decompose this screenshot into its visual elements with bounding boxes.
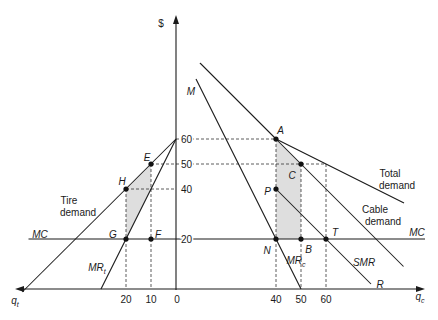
cable-quantity-axis-label: qc (415, 291, 425, 304)
label-demand: demand (60, 207, 96, 218)
label-tire: Tire (61, 195, 78, 206)
price-axis-arrow-icon (173, 15, 179, 24)
cable-shaded-area (276, 139, 301, 239)
point-b (298, 236, 303, 241)
mr-tire-curve (101, 139, 176, 289)
label-smr: SMR (353, 257, 375, 268)
x-tick-tire-10: 10 (145, 294, 157, 305)
x-tick-cable-50: 50 (295, 294, 307, 305)
point-a (273, 136, 278, 141)
label-r: R (376, 279, 383, 290)
label-t: T (332, 227, 339, 238)
y-tick-20: 20 (181, 234, 193, 245)
label-demand: demand (365, 216, 401, 227)
point-n (273, 236, 278, 241)
point-f (148, 236, 153, 241)
label-cable: Cable (362, 204, 389, 215)
label-mc: MC (32, 229, 48, 240)
point-g (123, 236, 128, 241)
label-total: Total (379, 168, 400, 179)
label-h: H (118, 176, 126, 187)
point-p (273, 186, 278, 191)
label-a: A (276, 125, 284, 136)
tire-quantity-axis-label: qt (11, 295, 20, 308)
point-c (298, 161, 303, 166)
point-h (123, 186, 128, 191)
annotations: MACPNBTMRcSMRRMCTotaldemandCabledemandEH… (32, 86, 425, 290)
tire-shaded-area (126, 164, 151, 239)
label-c: C (288, 170, 296, 181)
label-m: M (187, 86, 196, 97)
point-t (323, 236, 328, 241)
economics-diagram: $ qt qc 6050402020100405060 MACPNBTMRcSM… (0, 0, 438, 320)
label-f: F (155, 229, 162, 240)
x-tick-cable-0: 0 (174, 294, 180, 305)
y-tick-60: 60 (181, 134, 193, 145)
chart-canvas: $ qt qc 6050402020100405060 MACPNBTMRcSM… (0, 0, 438, 320)
label-n: N (263, 245, 271, 256)
label-p: P (264, 186, 271, 197)
y-tick-40: 40 (181, 184, 193, 195)
label-demand: demand (379, 180, 415, 191)
x-tick-cable-40: 40 (270, 294, 282, 305)
label-e: E (144, 152, 151, 163)
label-b: B (305, 244, 312, 255)
price-axis-label: $ (158, 18, 164, 29)
label-mc: MC (409, 227, 425, 238)
y-tick-50: 50 (181, 159, 193, 170)
label-g: G (109, 229, 117, 240)
x-tick-cable-60: 60 (320, 294, 332, 305)
x-tick-tire-20: 20 (120, 294, 132, 305)
label-mr-t: MRt (88, 262, 107, 275)
